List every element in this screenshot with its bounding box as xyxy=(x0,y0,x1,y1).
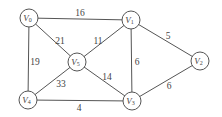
edge-v0-v5 xyxy=(29,18,77,62)
edge-weight-label: 5 xyxy=(166,31,171,41)
edge-v4-v3 xyxy=(28,100,132,101)
edge-weight-label: 33 xyxy=(56,79,66,89)
node-v4: V4 xyxy=(19,91,37,109)
edge-weight-label: 19 xyxy=(30,57,40,67)
nodes-layer: V0V1V2V3V4V5 xyxy=(19,9,209,110)
edge-v1-v3 xyxy=(131,20,132,101)
node-v3: V3 xyxy=(123,92,141,110)
edge-v0-v4 xyxy=(28,18,29,100)
edge-weight-label: 6 xyxy=(167,81,172,91)
edge-weight-label: 4 xyxy=(77,103,82,113)
edge-v0-v1 xyxy=(29,18,131,20)
edge-weight-label: 6 xyxy=(135,57,140,67)
graph-diagram: 1621191165331446 V0V1V2V3V4V5 xyxy=(0,0,222,117)
node-v5: V5 xyxy=(68,53,86,71)
node-v0: V0 xyxy=(20,9,38,27)
node-v2: V2 xyxy=(191,52,209,70)
edge-v1-v5 xyxy=(77,20,131,62)
node-v1: V1 xyxy=(122,11,140,29)
edge-weight-label: 14 xyxy=(102,72,112,82)
weights-layer: 1621191165331446 xyxy=(30,8,171,113)
edge-weight-label: 16 xyxy=(75,8,85,18)
edges-layer xyxy=(28,18,200,101)
edge-weight-label: 11 xyxy=(93,36,102,46)
edge-weight-label: 21 xyxy=(55,36,65,46)
